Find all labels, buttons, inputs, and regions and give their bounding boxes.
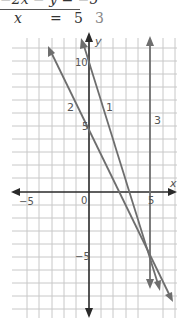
line-2-label: 2	[67, 101, 74, 114]
line-2	[48, 46, 173, 302]
line-1-label: 1	[106, 101, 113, 114]
x-tick-neg5: −5	[19, 196, 34, 207]
line-3-down-arrow-icon	[146, 279, 154, 289]
coordinate-graph: y x −5 0 5 10 5 −5 1 2 3	[0, 0, 187, 335]
y-axis	[85, 32, 93, 318]
line-2-down-arrow-icon	[165, 292, 173, 302]
x-tick-5: 5	[148, 195, 154, 206]
x-axis-left-arrow-icon	[11, 188, 20, 196]
x-axis-label: x	[169, 177, 177, 190]
y-axis-up-arrow-icon	[85, 32, 93, 42]
line-3-label: 3	[154, 114, 161, 127]
y-axis-label: y	[94, 35, 102, 48]
line-3-up-arrow-icon	[146, 36, 154, 46]
y-tick-neg5: −5	[75, 251, 90, 262]
origin-label: 0	[81, 195, 87, 206]
y-axis-down-arrow-icon	[85, 308, 93, 318]
y-tick-10: 10	[75, 57, 88, 68]
y-tick-5: 5	[82, 121, 88, 132]
line-1-down-arrow-icon	[154, 280, 161, 291]
